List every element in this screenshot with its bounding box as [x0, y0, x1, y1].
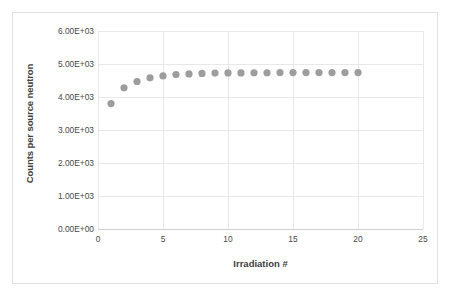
data-point [133, 78, 140, 85]
plot-svg [0, 0, 453, 300]
data-point [198, 70, 205, 77]
data-markers [107, 69, 361, 107]
data-point [263, 69, 270, 76]
data-point [211, 69, 218, 76]
data-point [328, 69, 335, 76]
data-point [107, 100, 114, 107]
data-point [224, 69, 231, 76]
data-point [120, 84, 127, 91]
data-point [341, 69, 348, 76]
data-point [146, 74, 153, 81]
data-point [172, 71, 179, 78]
grid-lines [98, 31, 423, 229]
data-point [289, 69, 296, 76]
data-point [159, 72, 166, 79]
data-point [302, 69, 309, 76]
chart-container: Counts per source neutron Irradiation # … [0, 0, 453, 300]
data-point [315, 69, 322, 76]
data-point [276, 69, 283, 76]
data-point [354, 69, 361, 76]
data-point [237, 69, 244, 76]
data-point [185, 70, 192, 77]
data-point [250, 69, 257, 76]
